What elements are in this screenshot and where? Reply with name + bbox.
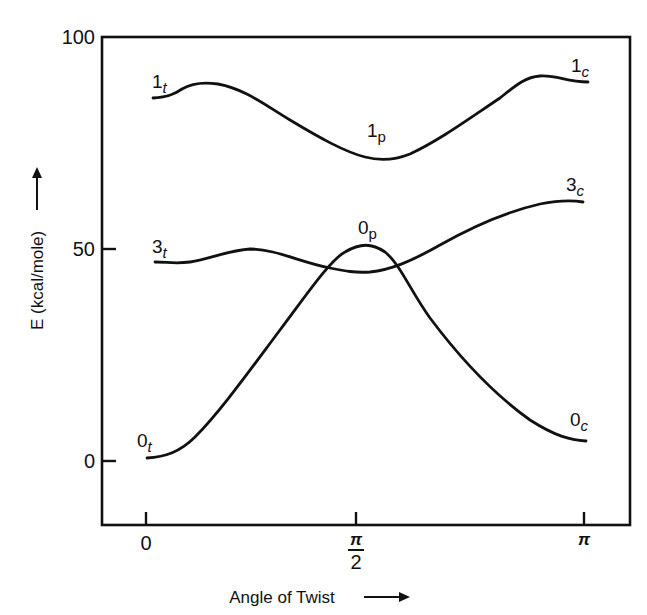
x-axis-arrow-icon — [399, 592, 410, 602]
x-axis-title: Angle of Twist — [229, 588, 410, 607]
y-tick-label-50: 50 — [73, 238, 95, 260]
x-tick-label-pi-half-numerator: π — [350, 530, 363, 549]
label-1c: 1c — [571, 55, 590, 80]
label-0c: 0c — [570, 409, 589, 434]
y-axis-arrow-icon — [32, 167, 42, 178]
plot-frame — [102, 37, 630, 525]
label-3t: 3t — [152, 236, 168, 261]
y-axis-title-text: E (kcal/mole) — [28, 231, 47, 330]
label-3c: 3c — [566, 174, 585, 199]
label-0p: 0p — [358, 217, 377, 242]
label-0t: 0t — [137, 430, 153, 455]
x-axis-title-text: Angle of Twist — [229, 588, 335, 607]
curve-state-0 — [147, 245, 586, 458]
x-tick-label-pi-half-denominator: 2 — [350, 551, 361, 573]
curve-state-1 — [153, 76, 588, 159]
y-tick-label-100: 100 — [62, 26, 95, 48]
label-1t: 1t — [152, 71, 168, 96]
label-1p: 1p — [367, 120, 386, 145]
potential-energy-chart: 100 50 0 0 π 2 π Angle of Twist E (kcal/… — [0, 0, 647, 615]
y-tick-label-0: 0 — [84, 450, 95, 472]
y-axis-title: E (kcal/mole) — [28, 167, 47, 330]
x-tick-label-0: 0 — [140, 532, 151, 554]
x-tick-label-pi: π — [578, 530, 591, 549]
